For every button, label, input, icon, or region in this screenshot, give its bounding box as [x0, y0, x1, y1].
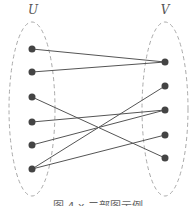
set-u-label: U [28, 3, 39, 17]
node-u3 [29, 94, 36, 101]
figure-caption: 图 4.x 二部图示例 [0, 197, 196, 206]
node-v1 [162, 59, 169, 66]
edge-u6-v2 [32, 86, 165, 169]
node-v4 [162, 132, 169, 139]
node-v2 [162, 83, 169, 90]
node-v3 [162, 107, 169, 114]
edge-u4-v3 [32, 110, 165, 122]
node-u4 [29, 119, 36, 126]
set-labels: UV [28, 3, 171, 17]
graph-nodes [29, 46, 169, 173]
set-v-label: V [161, 3, 171, 17]
bipartite-graph-diagram: UV [0, 0, 196, 206]
node-u6 [29, 166, 36, 173]
node-u1 [29, 46, 36, 53]
node-u5 [29, 142, 36, 149]
node-u2 [29, 69, 36, 76]
node-v5 [162, 155, 169, 162]
edge-u1-v1 [32, 49, 165, 62]
set-ellipses [9, 22, 188, 196]
